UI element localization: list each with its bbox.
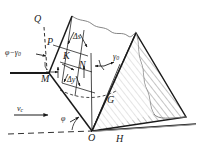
label-delta-y: Δy <box>67 76 75 84</box>
label-Q: Q <box>34 14 41 24</box>
label-phi-minus-gamma0-base: φ−γ <box>5 48 18 57</box>
label-phi-minus-gamma0-subscript: 0 <box>18 51 21 57</box>
vertical-line-NO <box>91 53 92 131</box>
label-O: O <box>88 133 95 143</box>
label-gamma0-subscript: 0 <box>116 55 119 61</box>
baseline-dashed <box>8 131 92 134</box>
wedge-interior-construction <box>53 16 95 96</box>
soil-wedge-diagram: Q P K N M G O H Δs Δy γ0 φ−γ0 φ vc <box>0 0 202 157</box>
label-H: H <box>116 134 123 144</box>
gamma0-angle-arc <box>95 60 114 70</box>
label-vc-subscript: c <box>21 107 24 113</box>
phi-angle-arc <box>70 117 79 130</box>
phi-minus-gamma0-pointer <box>36 54 47 70</box>
label-P: P <box>47 37 53 47</box>
label-G: G <box>107 95 114 105</box>
label-K: K <box>63 51 70 61</box>
label-M: M <box>41 74 49 84</box>
label-vc: vc <box>17 105 23 114</box>
label-gamma0: γ0 <box>113 53 119 62</box>
label-N: N <box>79 60 86 70</box>
label-phi: φ <box>61 115 65 123</box>
label-phi-minus-gamma0: φ−γ0 <box>5 49 21 58</box>
diagram-canvas <box>0 0 202 157</box>
label-delta-s: Δs <box>73 33 81 41</box>
